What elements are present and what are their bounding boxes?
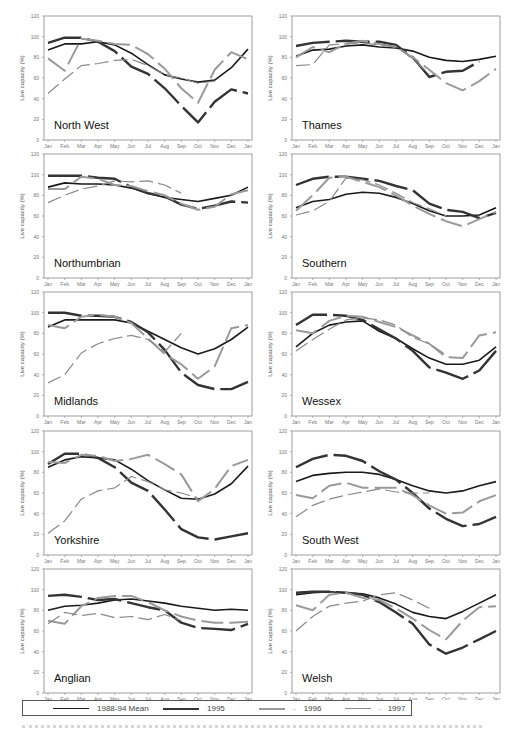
y-tick-label: 0 [36, 552, 39, 558]
x-tick-label: Nov [458, 281, 467, 287]
x-tick-label: Aug [160, 143, 169, 149]
y-tick-label: 100 [279, 34, 288, 40]
x-tick-label: May [110, 419, 120, 425]
chart-grid: 020406080100120JanFebMarAprMayJunJulAugS… [0, 0, 514, 700]
x-tick-label: Sep [177, 281, 186, 287]
y-tick-label: 0 [284, 413, 287, 419]
x-tick-label: Dec [475, 558, 484, 564]
y-tick-label: 120 [279, 151, 288, 157]
x-tick-label: May [110, 281, 120, 287]
panel-title-anglian: Anglian [54, 672, 91, 684]
x-tick-label: Apr [94, 281, 102, 287]
x-tick-label: Aug [408, 281, 417, 287]
x-tick-label: Dec [227, 143, 236, 149]
x-tick-label: Apr [94, 143, 102, 149]
x-tick-label: Apr [94, 419, 102, 425]
x-tick-label: Jun [127, 558, 135, 564]
y-tick-label: 0 [284, 690, 287, 696]
y-tick-label: 60 [33, 213, 39, 219]
caption-faded [22, 722, 492, 730]
x-tick-label: Jan [492, 558, 500, 564]
legend-item-1995: 1995 [163, 703, 225, 715]
y-axis-label: Live capacity (%) [267, 470, 273, 516]
x-tick-label: Sep [425, 143, 434, 149]
y-axis-label: Live capacity (%) [19, 470, 25, 516]
x-tick-label: Jan [44, 419, 52, 425]
x-tick-label: Mar [77, 143, 86, 149]
y-tick-label: 20 [33, 531, 39, 537]
x-tick-label: Oct [442, 281, 450, 287]
y-tick-label: 40 [33, 372, 39, 378]
x-tick-label: May [110, 143, 120, 149]
y-tick-label: 20 [33, 254, 39, 260]
y-tick-label: 0 [36, 413, 39, 419]
x-tick-label: Mar [325, 281, 334, 287]
legend: 1988-94 Mean 1995 -1996 -1997 [22, 700, 412, 716]
y-tick-label: 60 [281, 351, 287, 357]
x-tick-label: Oct [194, 143, 202, 149]
panel-title-wessex: Wessex [302, 395, 341, 407]
x-tick-label: Jan [44, 143, 52, 149]
y-tick-label: 120 [279, 289, 288, 295]
y-tick-label: 40 [281, 234, 287, 240]
y-tick-label: 100 [31, 310, 40, 316]
x-tick-label: Oct [442, 143, 450, 149]
y-tick-label: 80 [281, 607, 287, 613]
x-tick-label: Apr [94, 558, 102, 564]
x-tick-label: Nov [458, 143, 467, 149]
legend-label-mean: 1988-94 Mean [97, 704, 149, 713]
x-tick-label: Feb [60, 558, 69, 564]
panel-title-yorkshire: Yorkshire [54, 534, 99, 546]
y-tick-label: 100 [31, 172, 40, 178]
y-tick-label: 0 [36, 137, 39, 143]
y-tick-label: 0 [284, 552, 287, 558]
x-tick-label: Mar [77, 281, 86, 287]
y-tick-label: 60 [33, 75, 39, 81]
y-axis-label: Live capacity (%) [267, 193, 273, 239]
x-tick-label: Dec [227, 558, 236, 564]
x-tick-label: Feb [60, 143, 69, 149]
y-tick-label: 40 [281, 649, 287, 655]
legend-swatch-1996 [259, 708, 285, 710]
x-tick-label: Dec [227, 419, 236, 425]
x-tick-label: Jan [492, 696, 500, 700]
x-tick-label: Dec [475, 696, 484, 700]
y-tick-label: 60 [281, 75, 287, 81]
y-tick-label: 40 [33, 649, 39, 655]
legend-item-1997: -1997 [345, 703, 405, 715]
legend-label-1996: 1996 [304, 704, 322, 713]
x-tick-label: Oct [442, 696, 450, 700]
x-tick-label: May [358, 419, 368, 425]
x-tick-label: Aug [408, 419, 417, 425]
x-tick-label: Aug [160, 419, 169, 425]
x-tick-label: Oct [442, 419, 450, 425]
y-axis-label: Live capacity (%) [267, 55, 273, 101]
panel-title-south-west: South West [302, 534, 359, 546]
y-axis-label: Live capacity (%) [19, 55, 25, 101]
x-tick-label: Apr [342, 419, 350, 425]
y-tick-label: 80 [281, 54, 287, 60]
x-tick-label: Sep [177, 419, 186, 425]
y-tick-label: 40 [33, 234, 39, 240]
y-tick-label: 20 [281, 531, 287, 537]
x-tick-label: Jan [492, 419, 500, 425]
x-tick-label: Sep [177, 558, 186, 564]
y-tick-label: 120 [31, 566, 40, 572]
x-tick-label: Aug [160, 281, 169, 287]
x-tick-label: Mar [325, 419, 334, 425]
x-tick-label: Jan [492, 143, 500, 149]
x-tick-label: Jul [393, 419, 399, 425]
x-tick-label: Jun [127, 281, 135, 287]
y-tick-label: 40 [281, 511, 287, 517]
y-tick-label: 80 [33, 330, 39, 336]
y-axis-label: Live capacity (%) [19, 608, 25, 654]
x-tick-label: Jul [393, 281, 399, 287]
y-tick-label: 120 [279, 566, 288, 572]
x-tick-label: Sep [425, 281, 434, 287]
y-tick-label: 0 [36, 275, 39, 281]
y-tick-label: 60 [33, 351, 39, 357]
x-tick-label: Jun [127, 143, 135, 149]
x-tick-label: Feb [60, 419, 69, 425]
x-tick-label: Sep [425, 558, 434, 564]
y-tick-label: 20 [33, 392, 39, 398]
